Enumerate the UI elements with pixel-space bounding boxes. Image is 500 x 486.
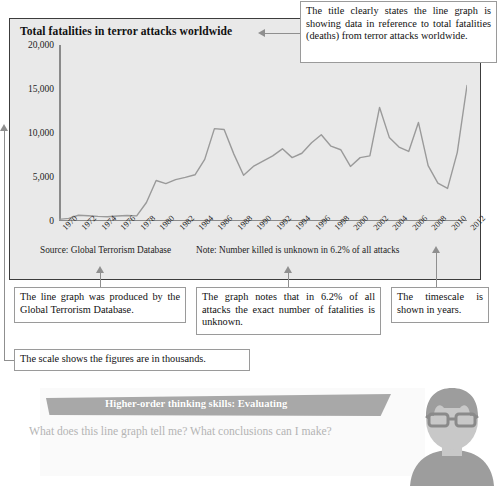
plot-wrapper: 05,00010,00015,00020,000 197019721974197… (10, 45, 482, 241)
callout-title: The title clearly states the line graph … (300, 1, 497, 63)
leader-arrow-title (258, 29, 265, 37)
y-axis-tick-labels: 05,00010,00015,00020,000 (10, 45, 58, 221)
leader-line-timescale (436, 252, 437, 287)
page-footer-text (20, 475, 320, 486)
leader-line-scale-v (4, 130, 5, 360)
leader-arrow-note (284, 266, 292, 273)
y-axis-tick: 15,000 (28, 84, 54, 94)
callout-timescale: The timescale is shown in years. (391, 287, 489, 323)
leader-line-source (100, 272, 101, 287)
hots-question: What does this line graph tell me? What … (29, 424, 359, 440)
chart-title: Total fatalities in terror attacks world… (20, 25, 232, 37)
y-axis-tick: 10,000 (28, 128, 54, 138)
callout-scale: The scale shows the figures are in thous… (14, 349, 250, 371)
x-axis-tick: 2012 (468, 213, 487, 232)
y-axis-tick: 20,000 (28, 40, 54, 50)
avatar (404, 386, 500, 486)
leader-line-title (264, 33, 302, 34)
callout-source: The line graph was produced by the Globa… (14, 287, 186, 323)
leader-arrow-timescale (432, 246, 440, 253)
plot-area (59, 45, 467, 221)
chart-footnotes: Source: Global Terrorism Database Note: … (10, 245, 482, 263)
leader-arrow-source (96, 266, 104, 273)
leader-arrow-scale (0, 124, 8, 131)
y-axis-tick: 0 (49, 216, 54, 226)
y-axis-tick: 5,000 (33, 172, 54, 182)
footnote-source: Source: Global Terrorism Database (40, 245, 171, 255)
line-series (59, 45, 467, 221)
footnote-note: Note: Number killed is unknown in 6.2% o… (196, 245, 399, 255)
hots-banner-label: Higher-order thinking skills: Evaluating (105, 398, 435, 409)
callout-note: The graph notes that in 6.2% of all atta… (196, 287, 381, 335)
leader-line-note (288, 272, 289, 287)
